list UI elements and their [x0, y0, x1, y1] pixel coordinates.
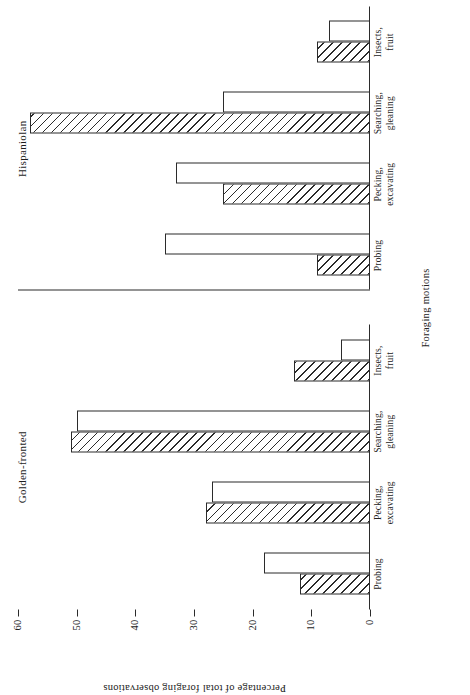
- bar-pair: [30, 91, 370, 133]
- bar-pair: [264, 552, 370, 594]
- category-label: Probing: [372, 219, 412, 290]
- y-axis-tick-label: 40: [130, 619, 141, 630]
- category-label: Insects,fruit: [372, 325, 412, 396]
- bar-group: [18, 325, 370, 396]
- bar-group: [18, 77, 370, 148]
- bar: [294, 360, 370, 381]
- bar: [300, 573, 370, 594]
- category-label-row: ProbingPecking,excavatingSearching,glean…: [372, 6, 412, 291]
- y-axis-tick-label: 0: [365, 619, 376, 624]
- category-label: Insects,fruit: [372, 6, 412, 77]
- plot-area: [18, 6, 370, 291]
- bar-group: [18, 148, 370, 219]
- x-axis-title: Foraging motions: [420, 6, 431, 609]
- y-axis-title: Percentage of total foraging observation…: [18, 679, 370, 695]
- category-label-line: Probing: [372, 219, 384, 290]
- y-axis-tick-label: 50: [71, 619, 82, 630]
- category-axis-labels: ProbingPecking,excavatingSearching,glean…: [372, 6, 412, 609]
- bar: [317, 254, 370, 275]
- category-label-line: Pecking,: [372, 467, 384, 538]
- rotated-figure-wrapper: Percentage of total foraging observation…: [0, 0, 470, 695]
- bar: [165, 233, 370, 254]
- bar-pair: [294, 339, 370, 381]
- y-axis-tick-label: 60: [13, 619, 24, 630]
- bar: [71, 431, 370, 452]
- plot-area: [18, 325, 370, 610]
- grouped-bar-chart: Percentage of total foraging observation…: [0, 0, 470, 695]
- y-axis-tick-label: 30: [189, 619, 200, 630]
- bar-pair: [206, 481, 370, 523]
- bar-group: [18, 6, 370, 77]
- category-label-line: gleaning: [384, 396, 396, 467]
- category-label-line: gleaning: [384, 77, 396, 148]
- bar-pair: [71, 410, 370, 452]
- category-label-line: Pecking,: [372, 148, 384, 219]
- bar: [206, 502, 370, 523]
- bar: [223, 183, 370, 204]
- category-label: Searching,gleaning: [372, 77, 412, 148]
- y-axis-tick: [194, 609, 195, 616]
- bar-pair: [165, 233, 370, 275]
- bar-groups: [18, 325, 370, 610]
- panel-container: Golden-frontedHispaniolan: [18, 6, 370, 609]
- bar-group: [18, 467, 370, 538]
- bar: [264, 552, 370, 573]
- category-label-line: Probing: [372, 538, 384, 609]
- y-axis-tick-label: 20: [247, 619, 258, 630]
- category-label: Probing: [372, 538, 412, 609]
- bar-groups: [18, 6, 370, 290]
- y-axis-tick: [135, 609, 136, 616]
- chart-panel: Hispaniolan: [18, 6, 370, 291]
- figure-canvas: Percentage of total foraging observation…: [0, 0, 470, 695]
- category-label-line: excavating: [384, 148, 396, 219]
- category-label: Pecking,excavating: [372, 467, 412, 538]
- category-label-line: Searching,: [372, 77, 384, 148]
- bar-group: [18, 396, 370, 467]
- category-label: Searching,gleaning: [372, 396, 412, 467]
- bar: [341, 339, 370, 360]
- baseline: [369, 325, 370, 610]
- bar-group: [18, 219, 370, 290]
- chart-panel: Golden-fronted: [18, 325, 370, 610]
- y-axis-tick: [311, 609, 312, 616]
- y-axis: 0102030405060: [18, 609, 370, 643]
- panel-title-text: Golden-fronted: [16, 431, 28, 503]
- bar: [223, 91, 370, 112]
- y-axis-tick: [77, 609, 78, 616]
- category-label: Pecking,excavating: [372, 148, 412, 219]
- y-axis-tick: [370, 609, 371, 616]
- bar-pair: [317, 20, 370, 62]
- panel-title-text: Hispaniolan: [16, 120, 28, 176]
- y-axis-tick-label: 10: [306, 619, 317, 630]
- bar-pair: [176, 162, 370, 204]
- category-label-line: excavating: [384, 467, 396, 538]
- bar: [30, 112, 370, 133]
- category-label-row: ProbingPecking,excavatingSearching,glean…: [372, 325, 412, 610]
- baseline: [369, 6, 370, 290]
- bar-group: [18, 538, 370, 609]
- category-label-line: Insects,: [372, 6, 384, 77]
- bar: [329, 20, 370, 41]
- category-label-line: Searching,: [372, 396, 384, 467]
- bar: [317, 41, 370, 62]
- bar: [212, 481, 370, 502]
- category-label-line: fruit: [384, 325, 396, 396]
- y-axis-tick: [253, 609, 254, 616]
- category-label-line: fruit: [384, 6, 396, 77]
- category-label-line: Insects,: [372, 325, 384, 396]
- y-axis-tick: [18, 609, 19, 616]
- bar: [77, 410, 370, 431]
- bar: [176, 162, 370, 183]
